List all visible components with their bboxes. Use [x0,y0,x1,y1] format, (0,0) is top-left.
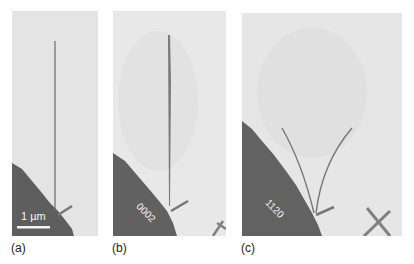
panel-a-image [12,11,98,236]
panel-c: 1120 [242,13,402,236]
panel-a: 1 µm [12,11,98,236]
panel-b: 0002 [113,11,226,236]
caption-c: (c) [241,241,255,255]
panel-b-image [113,11,226,236]
caption-b: (b) [112,241,127,255]
scale-bar [17,226,50,229]
caption-a: (a) [11,241,26,255]
scale-bar-label: 1 µm [21,210,46,222]
